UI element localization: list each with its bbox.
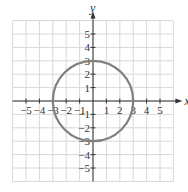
y-tick-label: −5	[78, 162, 90, 174]
x-tick-label: −2	[60, 104, 72, 116]
y-tick-label: 2	[85, 68, 91, 80]
x-axis-arrow-icon	[175, 99, 182, 104]
x-axis-label: x	[183, 94, 188, 108]
y-tick-label: 4	[85, 41, 91, 53]
axes	[13, 12, 183, 182]
y-tick-label: 5	[85, 28, 91, 40]
x-tick-label: 1	[104, 104, 110, 116]
x-tick-label: −4	[34, 104, 46, 116]
x-tick-label: 5	[157, 104, 163, 116]
x-tick-label: 2	[117, 104, 123, 116]
y-axis-label: y	[89, 1, 96, 15]
x-tick-label: 4	[144, 104, 150, 116]
x-tick-label: −5	[20, 104, 32, 116]
y-tick-label: −1	[78, 108, 90, 120]
y-tick-label: −2	[78, 122, 90, 134]
y-tick-label: 1	[85, 82, 91, 94]
coordinate-plane: −5−4−3−2−112345−5−4−3−2−112345 x y	[0, 0, 188, 192]
y-tick-label: −4	[78, 149, 90, 161]
